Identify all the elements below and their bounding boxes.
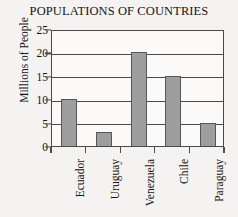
x-axis-tick-mark bbox=[189, 147, 190, 153]
bar bbox=[96, 132, 112, 146]
y-axis-tick-label: 15 bbox=[14, 71, 48, 83]
x-axis-category-label: Venezuela bbox=[144, 157, 156, 217]
bar-chart-figure: POPULATIONS OF COUNTRIES Millions of Peo… bbox=[0, 0, 238, 217]
bar bbox=[61, 99, 77, 146]
x-axis-category-label: Paraguay bbox=[213, 157, 225, 217]
x-axis-category-label: Chile bbox=[178, 157, 190, 217]
bar bbox=[165, 76, 181, 146]
y-axis-tick-label: 0 bbox=[14, 141, 48, 153]
x-axis-tick-mark bbox=[50, 147, 51, 153]
bar bbox=[200, 123, 216, 146]
x-axis-tick-mark bbox=[223, 147, 224, 153]
bar bbox=[131, 52, 147, 146]
chart-title: POPULATIONS OF COUNTRIES bbox=[0, 4, 238, 19]
x-axis-tick-mark bbox=[85, 147, 86, 153]
x-axis-category-label: Ecuador bbox=[74, 157, 86, 217]
y-axis-tick-label: 10 bbox=[14, 94, 48, 106]
y-axis-tick-label: 5 bbox=[14, 118, 48, 130]
y-axis-tick-label: 25 bbox=[14, 24, 48, 36]
x-axis-tick-mark bbox=[120, 147, 121, 153]
x-axis-tick-mark bbox=[154, 147, 155, 153]
plot-area bbox=[51, 30, 224, 147]
y-axis-tick-label: 20 bbox=[14, 47, 48, 59]
x-axis-category-label: Uruguay bbox=[109, 157, 121, 217]
